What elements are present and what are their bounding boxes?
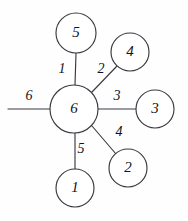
node-top-label: 5: [72, 24, 80, 40]
edge-5-label: 5: [78, 141, 85, 156]
edge-1-label: 1: [59, 61, 66, 76]
hub-node-label: 6: [70, 100, 78, 116]
edge-4-label: 4: [116, 124, 123, 139]
edge-4: [92, 126, 116, 154]
graph-diagram: 654321 123456: [0, 0, 188, 221]
edge-3-label: 3: [113, 88, 121, 103]
node-top-right-label: 4: [126, 43, 134, 59]
node-bottom-label: 1: [71, 179, 79, 195]
graph-canvas: 654321 123456: [0, 0, 188, 221]
node-top[interactable]: 5: [56, 13, 96, 53]
hub-node[interactable]: 6: [50, 85, 98, 133]
edge-2-label: 2: [98, 61, 105, 76]
node-right-label: 3: [150, 100, 159, 116]
nodes-layer: 654321: [50, 13, 174, 207]
edge-1: [75, 53, 76, 85]
edge-6-label: 6: [26, 88, 33, 103]
node-right[interactable]: 3: [136, 90, 174, 128]
node-bottom-right-label: 2: [124, 159, 132, 175]
node-bottom[interactable]: 1: [56, 169, 94, 207]
node-top-right[interactable]: 4: [111, 33, 149, 71]
node-bottom-right[interactable]: 2: [109, 149, 147, 187]
